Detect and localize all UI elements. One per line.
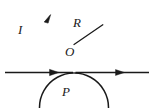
loop-arc-path bbox=[39, 73, 108, 108]
loop-current-arrowhead bbox=[44, 15, 50, 24]
physics-diagram-figure: I R O P bbox=[0, 0, 154, 108]
current-loop-circle bbox=[39, 73, 108, 108]
wire-arrowhead-right bbox=[116, 70, 125, 76]
current-label-I: I bbox=[18, 23, 22, 36]
wire-arrowhead-right-shape bbox=[116, 70, 125, 76]
radius-label-R: R bbox=[73, 16, 81, 29]
center-label-O: O bbox=[65, 45, 74, 58]
wire-arrowhead-left bbox=[50, 69, 60, 75]
wire-arrowhead-left-shape bbox=[50, 69, 60, 75]
loop-arrowhead-shape bbox=[44, 15, 50, 24]
tangent-point-label-P: P bbox=[62, 85, 70, 98]
